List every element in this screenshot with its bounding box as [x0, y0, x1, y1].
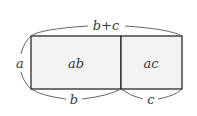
left-brace-top	[21, 36, 31, 54]
region-ab-label: ab	[68, 56, 84, 71]
diagram-svg: b+c a b c ab ac	[0, 0, 197, 116]
bottom-brace-b-left	[31, 89, 66, 99]
bottom-brace-c-right	[158, 89, 182, 99]
left-brace-bottom	[21, 72, 31, 89]
bottom-brace-c-label: c	[147, 92, 155, 107]
top-brace	[31, 26, 88, 36]
bottom-brace-c-left	[121, 89, 143, 99]
region-ac-label: ac	[143, 56, 159, 71]
bottom-brace-b-label: b	[70, 92, 78, 107]
bottom-brace-b-right	[82, 89, 121, 99]
left-brace-label: a	[16, 56, 24, 71]
top-brace-right	[125, 26, 182, 36]
top-brace-label: b+c	[93, 18, 120, 33]
area-model-diagram: b+c a b c ab ac	[0, 0, 197, 116]
